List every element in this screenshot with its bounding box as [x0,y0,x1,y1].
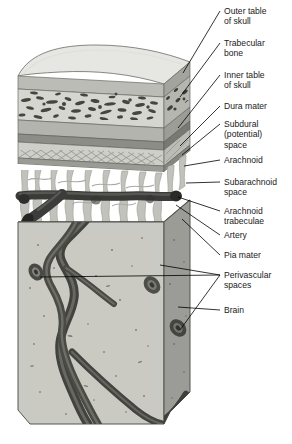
label-pia-mater: Pia mater [224,250,261,260]
brain-block [18,200,190,424]
label-trabecular-bone: Trabecularbone [224,38,265,58]
label-outer-table-of-skull: Outer tableof skull [224,6,267,26]
label-brain: Brain [224,305,244,315]
label-arachnoid-trabeculae: Arachnoidtrabeculae [224,206,264,226]
anatomy-diagram: Outer tableof skullTrabecularboneInner t… [0,0,292,444]
label-inner-table-of-skull: Inner tableof skull [224,70,265,90]
label-dura-mater: Dura mater [224,101,267,111]
label-subarachnoid-space: Subarachnoidspace [224,177,277,197]
leader-line-subarachnoid-space [186,182,220,183]
leader-line-outer-table-of-skull [183,11,220,73]
label-subdural-space: Subdural(potential)space [224,119,262,150]
label-layer: Outer tableof skullTrabecularboneInner t… [224,6,277,315]
label-artery: Artery [224,230,248,240]
label-arachnoid: Arachnoid [224,155,263,165]
label-perivascular-spaces: Perivascularspaces [224,270,271,290]
